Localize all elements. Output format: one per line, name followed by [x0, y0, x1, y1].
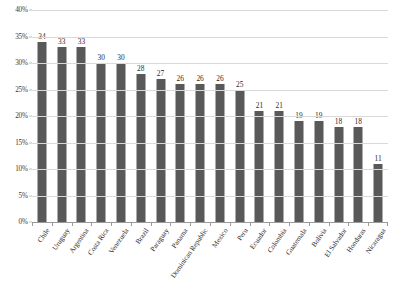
gridline: [32, 196, 388, 197]
plot-area: 343333303028272626262521211919181811: [32, 10, 388, 222]
bar-value-label: 26: [196, 74, 203, 83]
bar-value-label: 28: [137, 64, 144, 73]
x-axis-labels: ChileUruguayArgentinaCosta RicaVenezuela…: [32, 227, 388, 291]
x-axis-category-label: Panama: [170, 227, 189, 250]
x-axis-category-label: Brazil: [134, 227, 150, 246]
bar: [255, 111, 264, 222]
bar-value-label: 26: [216, 74, 223, 83]
x-tick-mark: [250, 222, 251, 226]
bar-value-label: 27: [157, 69, 164, 78]
x-tick-mark: [190, 222, 191, 226]
bar: [235, 90, 244, 223]
gridline: [32, 143, 388, 144]
x-axis-category-label: Chile: [36, 227, 51, 244]
x-tick-mark: [131, 222, 132, 226]
x-tick-mark: [210, 222, 211, 226]
gridline: [32, 63, 388, 64]
x-axis-category-label: Venezuela: [107, 227, 130, 255]
bar: [314, 121, 323, 222]
bar-value-label: 21: [276, 101, 283, 110]
bar-value-label: 25: [236, 80, 243, 89]
x-axis-category-label: Peru: [235, 227, 249, 242]
bar: [374, 164, 383, 222]
y-tick-label: 5%: [19, 192, 28, 200]
x-tick-mark: [151, 222, 152, 226]
bar: [294, 121, 303, 222]
bar-value-label: 26: [177, 74, 184, 83]
x-tick-mark: [348, 222, 349, 226]
bar-value-label: 21: [256, 101, 263, 110]
x-axis-category-label: Paraguay: [148, 227, 170, 253]
bar: [156, 79, 165, 222]
bar: [334, 127, 343, 222]
y-tick-label: 10%: [15, 165, 28, 173]
bar-value-label: 30: [98, 53, 105, 62]
x-axis-category-label: Bolivia: [310, 227, 328, 249]
x-tick-mark: [289, 222, 290, 226]
bar-value-label: 33: [58, 37, 65, 46]
x-tick-mark: [329, 222, 330, 226]
x-tick-mark: [368, 222, 369, 226]
bar: [176, 84, 185, 222]
gridline: [32, 169, 388, 170]
x-tick-mark: [387, 222, 388, 226]
y-tick-label: 30%: [15, 59, 28, 67]
y-tick-label: 25%: [15, 86, 28, 94]
bar-value-label: 30: [117, 53, 124, 62]
x-axis-category-label: Ecuador: [249, 227, 269, 251]
x-axis-category-label: Nicaragua: [364, 227, 387, 255]
bar: [275, 111, 284, 222]
bar: [196, 84, 205, 222]
x-axis-ticks: [32, 222, 388, 226]
bar-value-label: 18: [355, 117, 362, 126]
y-tick-label: 40%: [15, 6, 28, 14]
x-tick-mark: [72, 222, 73, 226]
y-tick-label: 0%: [19, 218, 28, 226]
y-tick-label: 15%: [15, 139, 28, 147]
x-axis-category-label: Dominican Republic: [169, 227, 209, 280]
gridline: [32, 90, 388, 91]
x-tick-mark: [230, 222, 231, 226]
bar: [136, 74, 145, 222]
y-tick-label: 35%: [15, 33, 28, 41]
bar: [215, 84, 224, 222]
x-axis-category-label: Mexico: [210, 227, 229, 249]
bar-chart: 0%5%10%15%20%25%30%35%40% 34333330302827…: [0, 0, 400, 291]
gridline: [32, 10, 388, 11]
x-tick-mark: [32, 222, 33, 226]
x-tick-mark: [91, 222, 92, 226]
x-tick-mark: [309, 222, 310, 226]
bar-value-label: 11: [375, 154, 382, 163]
x-tick-mark: [170, 222, 171, 226]
y-tick-label: 20%: [15, 112, 28, 120]
y-axis: 0%5%10%15%20%25%30%35%40%: [0, 0, 32, 223]
gridline: [32, 37, 388, 38]
gridline: [32, 116, 388, 117]
bar-value-label: 18: [335, 117, 342, 126]
bar-value-label: 33: [78, 37, 85, 46]
x-tick-mark: [269, 222, 270, 226]
x-tick-mark: [52, 222, 53, 226]
bar: [354, 127, 363, 222]
x-tick-mark: [111, 222, 112, 226]
